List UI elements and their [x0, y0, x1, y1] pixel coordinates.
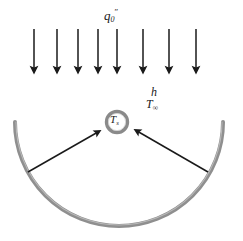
heat-flux-label: q0″ — [104, 8, 118, 24]
diagram-canvas — [0, 0, 243, 241]
ambient-temperature-subscript: ∞ — [153, 103, 158, 112]
ambient-temperature-base: T — [146, 97, 153, 111]
ambient-temperature-label: T∞ — [146, 98, 158, 112]
reflector-arc-highlight — [16, 122, 222, 225]
heat-transfer-diagram: q0″ h T∞ Ts — [0, 0, 243, 241]
heat-flux-superscript: ″ — [115, 7, 118, 17]
surface-temperature-label: Ts — [110, 114, 119, 127]
right-pointer-arrow — [137, 131, 208, 172]
left-pointer-arrow — [28, 132, 98, 172]
incident-flux-arrow-group — [34, 29, 196, 70]
pointer-arrow-group — [28, 131, 208, 172]
reflector-arc — [15, 122, 223, 226]
surface-temperature-subscript: s — [116, 119, 119, 126]
